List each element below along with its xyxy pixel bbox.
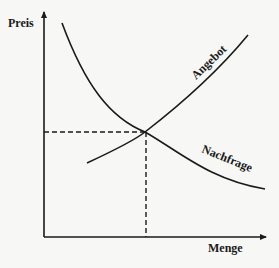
x-axis-label: Menge xyxy=(208,241,243,255)
diagram-svg: Preis Menge Angebot Nachfrage xyxy=(0,0,279,268)
y-axis-label: Preis xyxy=(8,16,34,30)
supply-demand-diagram: Preis Menge Angebot Nachfrage xyxy=(0,0,279,268)
